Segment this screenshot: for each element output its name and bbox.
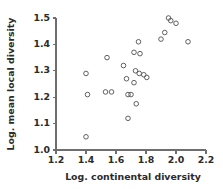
scatter-point — [136, 39, 141, 44]
x-axis-tick-label: 2.2 — [198, 154, 215, 165]
scatter-point — [129, 92, 134, 97]
scatter-point — [162, 30, 167, 35]
scatter-point — [105, 55, 110, 60]
scatter-point — [132, 80, 137, 85]
scatter-point — [121, 63, 126, 68]
scatter-plot-figure: 1.01.11.21.31.41.5 1.21.41.61.82.02.2 Lo… — [0, 0, 223, 189]
scatter-point — [124, 76, 129, 81]
plot-canvas: 1.01.11.21.31.41.5 1.21.41.61.82.02.2 Lo… — [0, 0, 223, 189]
scatter-point — [186, 39, 191, 44]
data-points — [84, 16, 191, 139]
x-axis-tick-label: 1.4 — [78, 154, 95, 165]
scatter-point — [174, 21, 179, 26]
y-axis-tick-label: 1.5 — [33, 12, 50, 23]
y-axis: 1.01.11.21.31.41.5 — [33, 12, 56, 155]
scatter-point — [109, 90, 114, 95]
scatter-point — [84, 71, 89, 76]
y-axis-tick-label: 1.3 — [33, 64, 50, 75]
x-axis-tick-label: 2.0 — [168, 154, 185, 165]
scatter-point — [137, 71, 142, 76]
scatter-point — [144, 75, 149, 80]
scatter-point — [103, 90, 108, 95]
scatter-point — [159, 37, 164, 42]
x-axis-tick-label: 1.8 — [138, 154, 155, 165]
x-axis-tick-label: 1.2 — [48, 154, 65, 165]
y-axis-tick-label: 1.4 — [33, 38, 50, 49]
scatter-point — [141, 72, 146, 77]
scatter-point — [138, 51, 143, 56]
x-axis: 1.21.41.61.82.02.2 — [48, 150, 215, 165]
x-axis-title: Log. continental diversity — [65, 171, 201, 182]
scatter-point — [132, 50, 137, 55]
y-axis-tick-label: 1.1 — [33, 117, 50, 128]
scatter-point — [126, 116, 131, 121]
y-axis-title: Log. mean local diversity — [5, 18, 16, 151]
y-axis-tick-label: 1.2 — [33, 91, 50, 102]
scatter-point — [84, 135, 89, 140]
scatter-point — [134, 102, 139, 107]
scatter-point — [85, 92, 90, 97]
x-axis-tick-label: 1.6 — [108, 154, 125, 165]
y-axis-tick-label: 1.0 — [33, 144, 50, 155]
